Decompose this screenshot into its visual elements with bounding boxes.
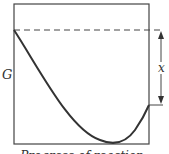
y-axis-label: G [2,67,12,82]
interval-label: x [158,61,165,75]
free-energy-curve [14,30,149,143]
energy-diagram: x G Progress of reaction [0,0,169,154]
arrow-up-icon [158,31,164,39]
plot-frame [14,4,149,144]
arrow-down-icon [158,96,164,104]
x-axis-label: Progress of reaction [19,149,144,154]
